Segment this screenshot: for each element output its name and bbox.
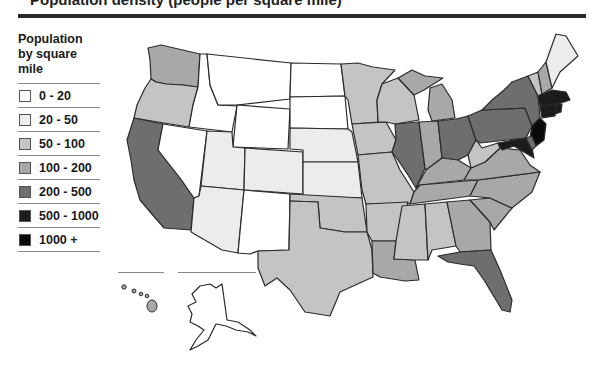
state-pa bbox=[468, 108, 532, 143]
state-co bbox=[244, 148, 303, 194]
state-ks bbox=[303, 162, 362, 198]
state-mt bbox=[207, 54, 291, 105]
alaska-inset-divider bbox=[178, 272, 256, 273]
hawaii-inset bbox=[122, 285, 157, 312]
state-nm bbox=[238, 190, 290, 254]
state-mi bbox=[428, 84, 455, 121]
state-ri bbox=[555, 104, 562, 114]
alaska-inset bbox=[188, 284, 256, 350]
state-sd bbox=[290, 96, 348, 129]
state-az bbox=[191, 186, 244, 253]
state-wa bbox=[148, 45, 200, 87]
state-nd bbox=[290, 63, 345, 97]
state-ct bbox=[540, 104, 556, 118]
state-me bbox=[546, 34, 578, 88]
state-ia bbox=[352, 122, 396, 155]
state-wy bbox=[233, 105, 290, 149]
state-fl bbox=[438, 250, 512, 312]
hawaii-inset-divider bbox=[118, 272, 164, 273]
us-population-map bbox=[0, 0, 602, 371]
